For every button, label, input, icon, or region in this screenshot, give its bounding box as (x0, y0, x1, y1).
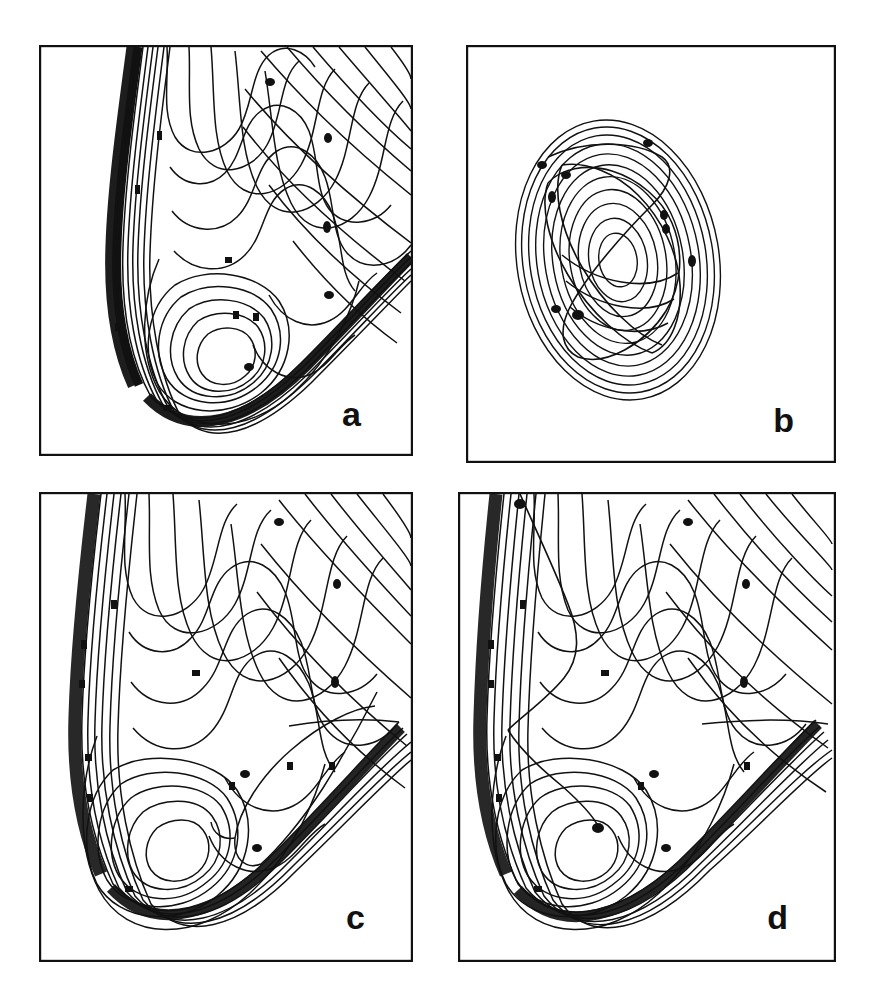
panel-c-plot (39, 492, 413, 962)
panel-b-letter: b (773, 403, 794, 437)
panel-c: c (39, 492, 413, 962)
panel-a: a (39, 45, 413, 456)
panel-c-frame (40, 493, 412, 961)
panel-d: d (458, 492, 836, 962)
panel-d-plot (458, 492, 836, 962)
panel-d-letter: d (767, 900, 788, 934)
panel-a-letter: a (342, 397, 361, 431)
figure-canvas: a (0, 0, 871, 996)
panel-c-letter: c (346, 900, 365, 934)
panel-b: b (466, 45, 836, 463)
